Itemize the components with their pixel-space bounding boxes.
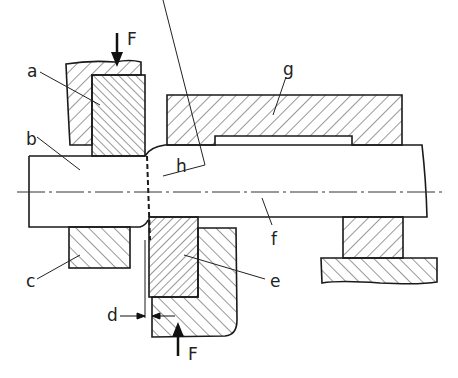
guide-g	[167, 95, 402, 145]
blade-a	[92, 75, 145, 156]
support-base	[321, 258, 437, 284]
label-g: g	[283, 59, 294, 79]
label-e: e	[270, 271, 280, 291]
label-h: h	[176, 156, 187, 176]
label-force-bottom: F	[188, 344, 198, 364]
label-a: a	[27, 61, 37, 81]
bar-f	[145, 145, 427, 217]
label-f: f	[271, 229, 278, 249]
label-d: d	[107, 305, 118, 325]
diagram-canvas: a b c d e f g h F F	[0, 0, 458, 378]
label-c: c	[26, 271, 35, 291]
support-post	[343, 217, 403, 258]
block-c	[69, 227, 130, 268]
label-force-top: F	[127, 29, 137, 49]
label-b: b	[26, 129, 37, 149]
